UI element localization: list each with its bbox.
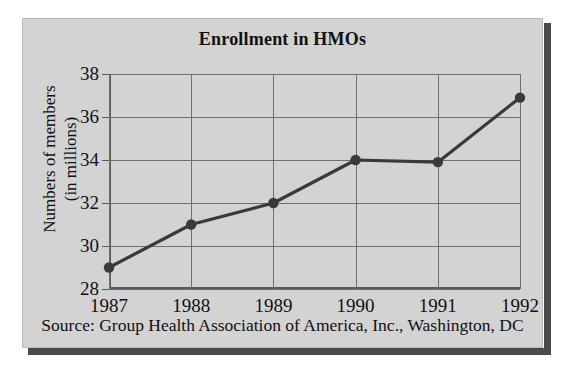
data-series-line-chart [109,74,520,289]
panel-shadow-bottom [28,348,551,355]
y-tick-mark [102,246,109,247]
plot-area: 283032343638 198719881989199019911992 [109,74,520,289]
gridline-horizontal [109,289,520,290]
page-title: Enrollment in HMOs [23,29,542,50]
y-tick-label: 38 [80,63,99,85]
x-tick-label: 1992 [501,295,539,317]
y-tick-mark [102,160,109,161]
y-axis-title-line-1: Numbers of members [39,59,60,259]
y-tick-mark [102,74,109,75]
data-point-marker [104,262,114,272]
x-tick-label: 1990 [337,295,375,317]
y-tick-mark [102,203,109,204]
x-tick-label: 1989 [254,295,292,317]
data-point-marker [268,198,278,208]
panel-shadow-right [544,23,551,354]
y-tick-label: 32 [80,192,99,214]
y-tick-label: 36 [80,106,99,128]
y-tick-mark [102,117,109,118]
gridline-vertical [520,74,521,289]
chart-figure-panel: Enrollment in HMOs Numbers of members (i… [22,18,543,348]
data-point-marker [350,155,360,165]
x-tick-label: 1987 [90,295,128,317]
y-tick-label: 30 [80,235,99,257]
y-axis-title: Numbers of members (in millions) [39,59,83,259]
data-line [109,98,520,268]
x-tick-label: 1991 [419,295,457,317]
y-tick-label: 34 [80,149,99,171]
data-point-marker [186,219,196,229]
y-tick-mark [102,289,109,290]
data-point-marker [515,92,525,102]
source-note: Source: Group Health Association of Amer… [23,315,542,336]
data-point-marker [433,157,443,167]
y-axis-title-line-2: (in millions) [60,59,81,259]
x-tick-label: 1988 [172,295,210,317]
